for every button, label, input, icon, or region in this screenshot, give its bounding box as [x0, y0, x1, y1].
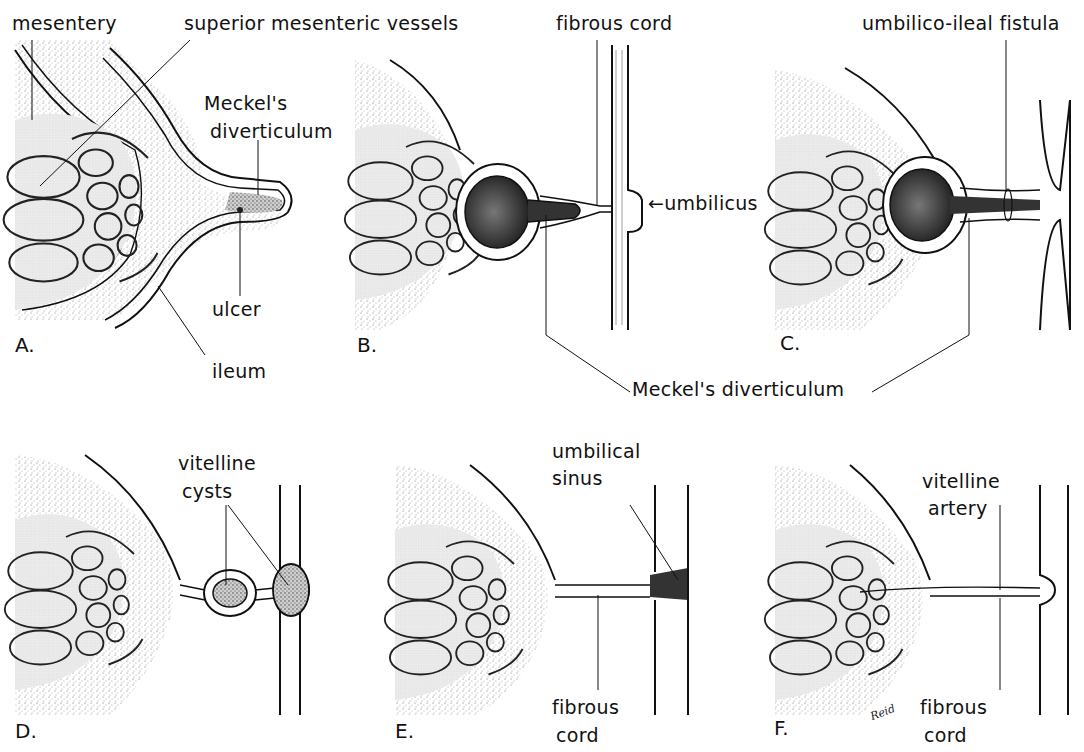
- panel-d-drawing: [5, 455, 309, 715]
- panel-f-drawing: [765, 465, 1068, 715]
- label-fibrous-cord-b: fibrous cord: [556, 12, 672, 34]
- panel-letter-f: F.: [774, 717, 789, 739]
- label-vitelline-artery-line1: vitelline: [922, 470, 1000, 492]
- panel-letter-b: B.: [357, 334, 377, 356]
- panel-b-drawing: [345, 40, 642, 392]
- label-fibrous-cord-e-line2: cord: [556, 724, 599, 746]
- label-umbilicus: ←umbilicus: [648, 192, 758, 214]
- label-fibrous-cord-e-line1: fibrous: [552, 696, 619, 718]
- label-vitelline-cysts-line2: cysts: [182, 480, 232, 502]
- label-fibrous-cord-f-line1: fibrous: [920, 696, 987, 718]
- label-superior-mesenteric-vessels: superior mesenteric vessels: [184, 12, 459, 34]
- label-fibrous-cord-f-line2: cord: [924, 724, 967, 746]
- label-umbilico-ileal-fistula: umbilico-ileal fistula: [862, 12, 1060, 34]
- label-vitelline-cysts-line1: vitelline: [178, 452, 256, 474]
- label-ulcer: ulcer: [212, 298, 261, 320]
- label-meckels-diverticulum-shared: Meckel's diverticulum: [632, 378, 844, 400]
- anatomy-figure: [0, 0, 1084, 752]
- label-umbilical-sinus-line1: umbilical: [552, 440, 641, 462]
- panel-c-drawing: [765, 40, 1070, 392]
- panel-letter-c: C.: [780, 332, 800, 354]
- panel-letter-e: E.: [395, 720, 414, 742]
- label-umbilical-sinus-line2: sinus: [552, 467, 603, 489]
- label-ileum: ileum: [212, 360, 266, 382]
- panel-letter-d: D.: [15, 720, 37, 742]
- label-vitelline-artery-line2: artery: [928, 497, 987, 519]
- label-mesentery: mesentery: [12, 12, 117, 34]
- label-meckels-diverticulum-a-line2: diverticulum: [210, 120, 333, 142]
- label-meckels-diverticulum-a-line1: Meckel's: [204, 92, 287, 114]
- panel-e-drawing: [385, 465, 688, 715]
- panel-letter-a: A.: [15, 334, 35, 356]
